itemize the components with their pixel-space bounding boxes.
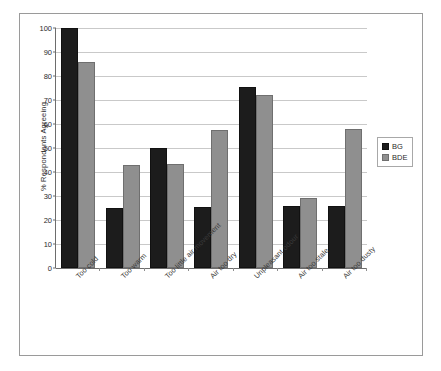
bar-group-bars [323, 28, 367, 268]
chart-legend: BG BDE [377, 137, 413, 167]
bar-bde [167, 164, 184, 268]
bar-group [278, 28, 322, 268]
chart-plot-wrapper: % Respondents Agreeing 01020304050607080… [20, 14, 422, 355]
bar-group-bars [100, 28, 144, 268]
bar-group-bars [278, 28, 322, 268]
x-axis-tick-mark [233, 268, 234, 271]
y-axis-tick-label: 40 [44, 168, 52, 177]
bar-bde [123, 165, 140, 268]
bar-bg [61, 28, 78, 268]
bar-bde [256, 95, 273, 268]
plot-area: 0102030405060708090100 Too coldToo warmT… [56, 28, 367, 268]
x-axis-tick-mark [277, 268, 278, 271]
bar-group [323, 28, 367, 268]
y-axis-tick-label: 60 [44, 120, 52, 129]
y-axis-tick-label: 90 [44, 48, 52, 57]
bar-bg [239, 87, 256, 268]
y-axis-tick-label: 10 [44, 240, 52, 249]
bar-group [56, 28, 100, 268]
legend-label-bde: BDE [392, 152, 407, 163]
x-axis-tick-mark [99, 268, 100, 271]
x-axis-tick-mark [366, 268, 367, 271]
y-axis-tick-label: 80 [44, 72, 52, 81]
x-axis-tick-mark [144, 268, 145, 271]
bar-group-bars [234, 28, 278, 268]
y-axis-tick-label: 100 [39, 24, 52, 33]
legend-label-bg: BG [392, 141, 403, 152]
bar-group-bars [145, 28, 189, 268]
bar-bde [78, 62, 95, 268]
legend-swatch-icon-bde [382, 154, 389, 161]
bar-bde [345, 129, 362, 268]
y-axis-tick-label: 50 [44, 144, 52, 153]
x-axis-tick-mark [322, 268, 323, 271]
bar-group [100, 28, 144, 268]
y-axis-tick-label: 0 [48, 264, 52, 273]
bar-bg [106, 208, 123, 268]
bar-group-bars [56, 28, 100, 268]
bar-bg [328, 206, 345, 268]
bar-bg [150, 148, 167, 268]
bar-group [145, 28, 189, 268]
y-axis-tick-label: 30 [44, 192, 52, 201]
chart-frame: % Respondents Agreeing 01020304050607080… [19, 13, 423, 356]
legend-item-bg: BG [382, 141, 407, 152]
bar-bde [211, 130, 228, 268]
y-axis-tick-label: 70 [44, 96, 52, 105]
legend-item-bde: BDE [382, 152, 407, 163]
x-axis-tick-mark [188, 268, 189, 271]
legend-swatch-icon-bg [382, 143, 389, 150]
bar-group [234, 28, 278, 268]
y-axis-tick-label: 20 [44, 216, 52, 225]
